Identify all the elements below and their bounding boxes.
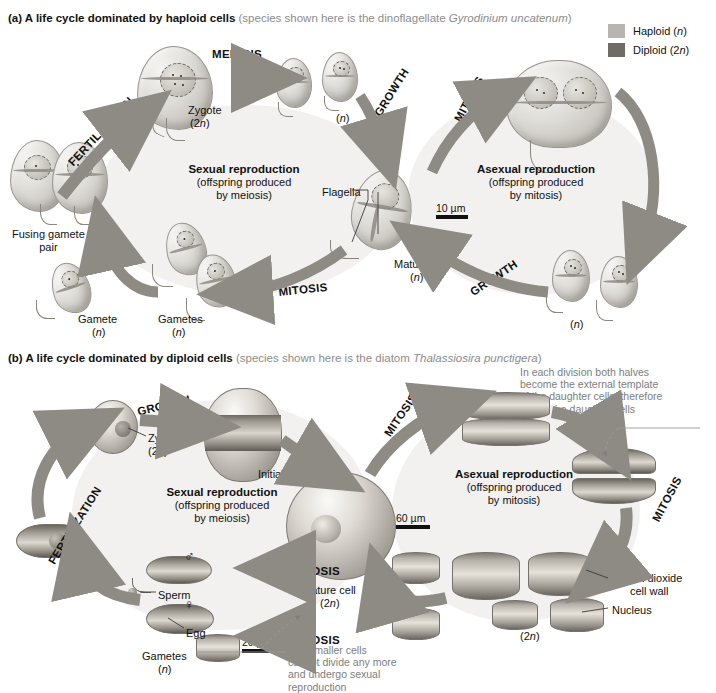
legend-label-diploid: Diploid (2n): [633, 44, 689, 56]
dividing-nucleus-right: [563, 77, 597, 109]
sexual-reproduction-heading-a: Sexual reproduction: [164, 163, 324, 176]
dividing-nucleus-left: [524, 77, 558, 109]
fusing-gamete-flagellum-left: [40, 204, 57, 225]
stage-mitosis-top-b: MITOSIS: [382, 391, 419, 438]
zygote-girdle: [141, 77, 209, 80]
zygote-nucleus-b: [115, 421, 131, 437]
daughter-diatom-large-1: [452, 552, 520, 600]
daughter-diatom-small-2: [550, 598, 604, 632]
female-symbol: ♀: [184, 598, 195, 611]
gamete-label-a: Gamete: [78, 313, 117, 326]
asexual-reproduction-sub-a: (offspring produced by mitosis): [456, 176, 616, 201]
daughter-diatom-small-1: [492, 600, 538, 630]
dividing-cell-a: [506, 60, 612, 148]
haploid-swatch: [608, 24, 625, 38]
initial-cell-label: Initial cell: [258, 468, 303, 481]
daughter-diatom-large-2: [528, 552, 592, 596]
meiosis-products-ploidy-a: (n): [336, 112, 349, 125]
dividing-diatom-top-lower: [462, 418, 550, 446]
gamete-flagellum-a: [36, 300, 55, 319]
gametes-ploidy-a: (n): [172, 326, 185, 339]
panel-b-title: (b) A life cycle dominated by diploid ce…: [8, 352, 542, 364]
egg-label: Egg: [186, 627, 206, 640]
fusing-gamete-flagellum-right: [74, 206, 89, 225]
ploidy-legend: Haploid (n) Diploid (2n): [608, 24, 689, 62]
sexual-reproduction-sub-a: (offspring produced by meiosis): [164, 176, 324, 201]
stage-meiosis-upper-b: MEIOSIS: [290, 565, 340, 577]
mature-cell-ploidy-a: (n): [410, 271, 423, 284]
panel-a-subtitle-post: ): [568, 12, 572, 24]
scalebar-10um: 10 µm: [436, 202, 468, 219]
panel-b-species: Thalassiosira punctigera: [413, 352, 538, 364]
meiosis-source-cell-upper: [392, 552, 440, 584]
gametes-flagellum-1: [152, 264, 173, 287]
male-symbol: ♂: [184, 550, 195, 563]
legend-item-diploid: Diploid (2n): [608, 43, 689, 57]
mature-cell-label-b: Mature cell: [302, 584, 356, 597]
zygote-ploidy-a: (2n): [190, 117, 210, 130]
panel-a-subtitle-pre: (species shown here is the dinoflagellat…: [239, 12, 449, 24]
meiosis-product-flagellum-1: [278, 102, 293, 117]
meiosis-product-cell-1: [276, 58, 312, 108]
meiosis-product-flagellum-2: [324, 96, 339, 111]
asexual-reproduction-sub-b: (offspring produced by mitosis): [432, 481, 596, 506]
panel-b-subtitle-post: ): [538, 352, 542, 364]
daughters-ploidy-b: (2n): [520, 630, 540, 643]
sexual-reproduction-heading-b: Sexual reproduction: [142, 486, 302, 499]
daughter-cell-1-flagellum: [546, 294, 563, 313]
stage-meiosis-a: MEIOSIS: [212, 48, 262, 60]
fusing-gamete-label: Fusing gamete pair: [12, 228, 85, 253]
meiosis-source-cell-lower: [392, 608, 440, 640]
asexual-reproduction-heading-a: Asexual reproduction: [456, 163, 616, 176]
scalebar-60um: 60 µm: [396, 512, 430, 529]
legend-item-haploid: Haploid (n): [608, 24, 689, 38]
zygote-label-b: Zygote: [148, 432, 182, 445]
sperm-cell: [146, 556, 212, 584]
zygote-ploidy-b: (2n): [148, 445, 168, 458]
gametes-ploidy-b: (n): [158, 663, 171, 676]
asexual-reproduction-heading-b: Asexual reproduction: [432, 468, 596, 481]
stage-meiosis-lower-b: MEIOSIS: [290, 634, 340, 646]
sperm-head: [128, 588, 137, 597]
mature-cell-ploidy-b: (2n): [320, 597, 340, 610]
daughters-ploidy-a: (n): [570, 318, 583, 331]
panel-a-key: (a): [8, 12, 22, 24]
zygote-label-a: Zygote: [188, 104, 222, 117]
diploid-swatch: [608, 43, 625, 57]
stage-growth-top-a: GROWTH: [372, 66, 411, 118]
sexual-reproduction-sub-b: (offspring produced by meiosis): [142, 499, 302, 524]
mature-cell-b: [286, 472, 396, 580]
panel-b-key: (b): [8, 352, 23, 364]
meiosis-product-cell-2: [322, 52, 358, 102]
panel-b-subtitle-pre: (species shown here is the diatom: [236, 352, 413, 364]
nucleus-label: Nucleus: [612, 604, 652, 617]
gametes-label-a: Gametes: [158, 313, 203, 326]
panel-a-species: Gyrodinium uncatenum: [449, 12, 568, 24]
panel-a-title: (a) A life cycle dominated by haploid ce…: [8, 12, 572, 24]
legend-label-haploid: Haploid (n): [633, 25, 687, 37]
dividing-diatom-top-upper: [462, 392, 550, 420]
silicon-dioxide-label: Silicon dioxide cell wall: [612, 572, 682, 597]
scalebar-20um: 20 µm: [242, 636, 272, 653]
zygote-nucleus: [160, 63, 196, 97]
zygote-cell-b: [88, 400, 138, 454]
mature-cell-nucleus-b: [311, 515, 341, 543]
flagella-label: Flagella: [322, 186, 361, 199]
mature-cell-label-a: Mature cell: [394, 258, 448, 271]
panel-a-heading: A life cycle dominated by haploid cells: [25, 12, 235, 24]
daughter-cell-2-flagellum: [596, 300, 613, 321]
smaller-cells-note: The smaller cells cannot divide any more…: [288, 644, 397, 693]
gametes-label-b: Gametes: [142, 650, 187, 663]
panel-b-heading: A life cycle dominated by diploid cells: [25, 352, 232, 364]
gamete-ploidy-a: (n): [92, 326, 105, 339]
